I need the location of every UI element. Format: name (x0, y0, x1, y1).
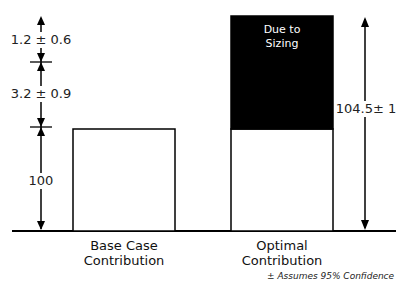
footnote: ± Assumes 95% Confidence (267, 271, 394, 281)
arrow-down-icon (37, 53, 45, 62)
dimension-label-sizing: 1.2 ± 0.6 (5, 32, 77, 48)
category-label-line1: Optimal (222, 238, 342, 253)
dimension-label-improvement: 3.2 ± 0.9 (5, 86, 77, 102)
optimal-bar-base (231, 129, 333, 231)
sizing-label-line2: Sizing (231, 37, 333, 51)
category-label-line2: Contribution (64, 253, 184, 268)
arrow-up-icon (37, 16, 45, 25)
arrow-up-icon (37, 62, 45, 71)
category-label-base-case: Base Case Contribution (64, 238, 184, 268)
arrow-down-icon (37, 118, 45, 127)
base-case-bar (73, 129, 175, 231)
sizing-label-line1: Due to (231, 23, 333, 37)
arrow-down-icon (37, 221, 45, 230)
dimension-label-base: 100 (26, 173, 56, 189)
category-label-line2: Contribution (222, 253, 342, 268)
arrow-down-icon (361, 220, 369, 230)
arrow-up-icon (37, 127, 45, 136)
dimension-label-optimal: 104.5± 1 (335, 101, 397, 117)
arrow-up-icon (361, 17, 369, 27)
category-label-line1: Base Case (64, 238, 184, 253)
sizing-segment-label: Due to Sizing (231, 23, 333, 51)
category-label-optimal: Optimal Contribution (222, 238, 342, 268)
